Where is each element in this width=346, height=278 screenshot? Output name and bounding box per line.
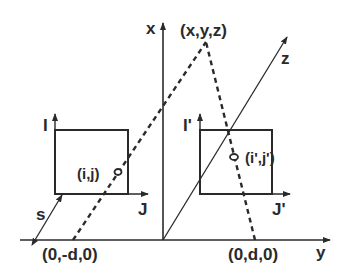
- right-j-label: J': [272, 201, 286, 218]
- x-axis-label: x: [146, 20, 155, 37]
- right-center-label: (0,d,0): [228, 246, 278, 263]
- right-image-point-marker: [230, 154, 238, 160]
- left-image-point-marker: [115, 169, 122, 175]
- left-i-label: I: [43, 117, 48, 134]
- left-j-label: J: [138, 201, 147, 218]
- left-image-plane: [55, 130, 128, 194]
- world-point-label: (x,y,z): [180, 22, 227, 39]
- left-image-point-label: (i,j): [77, 166, 100, 181]
- stereo-geometry-diagram: [0, 0, 346, 278]
- left-center-label: (0,-d,0): [42, 246, 98, 263]
- z-axis: [163, 37, 287, 240]
- right-i-label: I': [183, 117, 192, 134]
- right-image-point-label: (i',j'): [245, 150, 275, 165]
- distance-s-label: s: [36, 206, 45, 223]
- z-axis-label: z: [281, 50, 290, 67]
- right-projection-ray: [206, 42, 255, 240]
- y-axis-label: y: [316, 244, 325, 261]
